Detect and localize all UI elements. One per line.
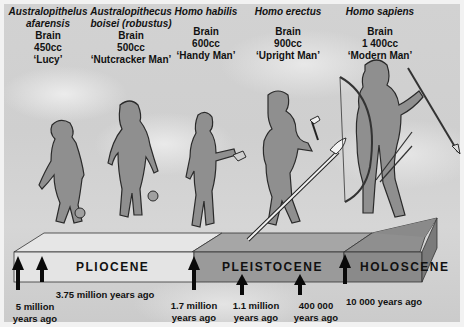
- species-name: Homo erectus: [250, 6, 326, 18]
- date-line2: years ago: [10, 313, 60, 325]
- pliocene-top: [14, 233, 222, 252]
- nickname: ‘Upright Man’: [250, 50, 326, 62]
- date-5-million: 5 million years ago: [10, 301, 60, 325]
- figure-lucy: [39, 120, 84, 223]
- brain-size: 600cc: [172, 38, 240, 50]
- date-line1: 1.1 million: [230, 300, 282, 312]
- species-label-habilis: Homo habilis Brain 600cc ‘Handy Man’: [172, 6, 240, 62]
- nickname: ‘Lucy’: [6, 54, 90, 66]
- brain-label: Brain: [340, 26, 420, 38]
- date-line2: years ago: [168, 312, 220, 324]
- species-name-2: boisei (robustus): [88, 18, 174, 30]
- date-line1: 10 000 years ago: [344, 296, 424, 308]
- nickname: ‘Modern Man’: [340, 50, 420, 62]
- date-line1: 1.7 million: [168, 300, 220, 312]
- torch-flame: [330, 138, 346, 154]
- date-line1: 3.75 million years ago: [40, 289, 170, 301]
- date-line2: years ago: [230, 312, 282, 324]
- species-label-afarensis: Australopithelus afarensis Brain 450cc ‘…: [6, 6, 90, 66]
- epoch-pleistocene: PLEISTOCENE: [222, 260, 323, 274]
- brain-size: 500cc: [88, 42, 174, 54]
- pleistocene-top: [192, 233, 372, 252]
- species-label-erectus: Homo erectus Brain 900cc ‘Upright Man’: [250, 6, 326, 62]
- epoch-pliocene: PLIOCENE: [76, 260, 149, 274]
- date-line1: 400 000: [290, 300, 342, 312]
- figure-sapiens: [356, 60, 423, 217]
- figure-erectus: [263, 91, 312, 225]
- epoch-holoscene: HOLOSCENE: [360, 260, 450, 274]
- species-name: Australopithecus: [88, 6, 174, 18]
- species-name: Homo sapiens: [340, 6, 420, 18]
- brain-size: 1 400cc: [340, 38, 420, 50]
- date-1-1-million: 1.1 million years ago: [230, 300, 282, 324]
- species-label-sapiens: Homo sapiens Brain 1 400cc ‘Modern Man’: [340, 6, 420, 62]
- figure-habilis: [186, 112, 236, 227]
- species-name: Australopithelus: [6, 6, 90, 18]
- date-1-7-million: 1.7 million years ago: [168, 300, 220, 324]
- date-line2: years ago: [290, 312, 342, 324]
- species-name: Homo habilis: [172, 6, 240, 18]
- date-3-75-million: 3.75 million years ago: [40, 289, 170, 301]
- nickname: ‘Nutcracker Man’: [88, 54, 174, 66]
- date-400000: 400 000 years ago: [290, 300, 342, 324]
- human-evolution-diagram: Australopithelus afarensis Brain 450cc ‘…: [0, 0, 464, 327]
- brain-label: Brain: [6, 30, 90, 42]
- date-line1: 5 million: [10, 301, 60, 313]
- brain-size: 900cc: [250, 38, 326, 50]
- species-label-boisei: Australopithecus boisei (robustus) Brain…: [88, 6, 174, 66]
- date-10000: 10 000 years ago: [344, 296, 424, 308]
- brain-label: Brain: [88, 30, 174, 42]
- brain-size: 450cc: [6, 42, 90, 54]
- brain-label: Brain: [172, 26, 240, 38]
- spear-tip: [452, 144, 460, 154]
- brain-label: Brain: [250, 26, 326, 38]
- species-name-2: afarensis: [6, 18, 90, 30]
- nickname: ‘Handy Man’: [172, 50, 240, 62]
